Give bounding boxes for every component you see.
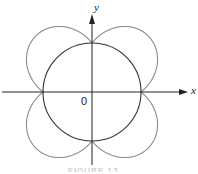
polar-diagram: [0, 0, 198, 174]
y-axis-label: y: [94, 1, 99, 13]
x-axis-label: x: [191, 84, 196, 96]
figure-caption: FIGURE 13: [68, 166, 132, 172]
y-axis-arrow-icon: [89, 14, 95, 24]
origin-label: 0: [81, 95, 87, 107]
x-axis-arrow-icon: [179, 89, 188, 95]
